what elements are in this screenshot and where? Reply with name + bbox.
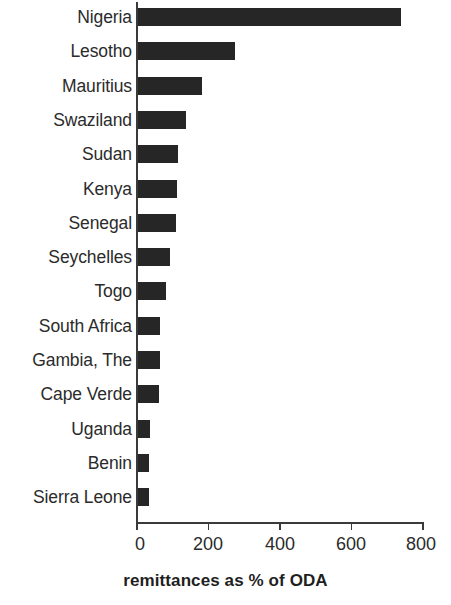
- bar-cape-verde: [138, 385, 159, 403]
- chart-row: Seychelles: [0, 240, 451, 274]
- category-label: Sudan: [0, 137, 132, 171]
- chart-row: Nigeria: [0, 0, 451, 34]
- x-tick-0: [136, 522, 138, 530]
- chart-row: Lesotho: [0, 34, 451, 68]
- category-label: Benin: [0, 446, 132, 480]
- chart-row: Senegal: [0, 206, 451, 240]
- bar-togo: [138, 282, 166, 300]
- category-label: Kenya: [0, 172, 132, 206]
- x-tick-label-0: 0: [135, 534, 145, 555]
- category-label: South Africa: [0, 309, 132, 343]
- bar-sudan: [138, 145, 178, 163]
- category-label: Uganda: [0, 412, 132, 446]
- bar-south-africa: [138, 317, 160, 335]
- x-tick-label-600: 600: [336, 534, 366, 555]
- bar-benin: [138, 454, 149, 472]
- x-tick-label-800: 800: [406, 534, 436, 555]
- x-tick-label-200: 200: [193, 534, 223, 555]
- bar-mauritius: [138, 77, 202, 95]
- bar-sierra-leone: [138, 488, 149, 506]
- x-axis-title: remittances as % of ODA: [0, 571, 451, 591]
- x-tick-400: [279, 522, 281, 530]
- chart-row: Uganda: [0, 412, 451, 446]
- category-label: Seychelles: [0, 240, 132, 274]
- chart-row: Swaziland: [0, 103, 451, 137]
- chart-row: Gambia, The: [0, 343, 451, 377]
- category-label: Swaziland: [0, 103, 132, 137]
- chart-row: Togo: [0, 274, 451, 308]
- bar-uganda: [138, 420, 150, 438]
- category-label: Togo: [0, 274, 132, 308]
- chart-row: Cape Verde: [0, 377, 451, 411]
- bar-gambia: [138, 351, 160, 369]
- y-axis-line: [136, 2, 138, 522]
- plot-area: Nigeria Lesotho Mauritius Swaziland Suda…: [0, 0, 451, 524]
- bar-swaziland: [138, 111, 186, 129]
- category-label: Nigeria: [0, 0, 132, 34]
- chart-row: Mauritius: [0, 69, 451, 103]
- x-tick-label-400: 400: [265, 534, 295, 555]
- bar-kenya: [138, 180, 177, 198]
- category-label: Lesotho: [0, 34, 132, 68]
- chart-row: Kenya: [0, 172, 451, 206]
- x-tick-800: [422, 522, 424, 530]
- category-label: Sierra Leone: [0, 480, 132, 514]
- x-tick-600: [351, 522, 353, 530]
- category-label: Mauritius: [0, 69, 132, 103]
- bar-lesotho: [138, 42, 236, 60]
- x-tick-200: [208, 522, 210, 530]
- category-label: Gambia, The: [0, 343, 132, 377]
- bar-nigeria: [138, 8, 401, 26]
- chart-row: Sierra Leone: [0, 480, 451, 514]
- bar-senegal: [138, 214, 176, 232]
- category-label: Cape Verde: [0, 377, 132, 411]
- bar-seychelles: [138, 248, 170, 266]
- category-label: Senegal: [0, 206, 132, 240]
- chart-row: Sudan: [0, 137, 451, 171]
- chart-row: South Africa: [0, 309, 451, 343]
- bar-chart: Nigeria Lesotho Mauritius Swaziland Suda…: [0, 0, 451, 605]
- chart-row: Benin: [0, 446, 451, 480]
